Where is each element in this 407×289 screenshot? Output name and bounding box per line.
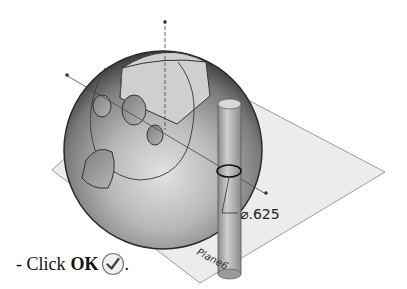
ok-label: OK (71, 254, 99, 275)
diameter-dimension: ⌀.625 (240, 206, 280, 222)
instruction-text: - Click OK . (16, 252, 129, 276)
hole (93, 95, 111, 117)
instruction-prefix: - Click (16, 254, 66, 275)
cad-figure: ⌀.625 Plane6 (0, 0, 407, 289)
cylinder (218, 104, 241, 274)
instruction-suffix: . (125, 254, 130, 275)
ok-checkmark-icon[interactable] (101, 252, 125, 276)
